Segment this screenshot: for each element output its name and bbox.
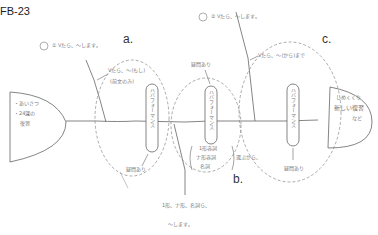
oval-b-text: ハバフォーマンス: [208, 90, 213, 142]
branch-c-question: 疑問あり: [284, 166, 304, 171]
branch-b-question: 疑問あり: [191, 62, 211, 67]
section-letter-c: c.: [322, 33, 331, 45]
label-text: ② Vたら、〜します。: [211, 13, 261, 19]
section-letter-a: a.: [123, 33, 133, 45]
spine-line: [66, 120, 318, 122]
section-letter-b: b.: [233, 173, 243, 185]
branch-a-line-1: Vたら、〜(もし): [108, 68, 145, 73]
branch-b-list-2: ナ形容詞: [196, 155, 216, 160]
rib-a: [86, 60, 106, 122]
branch-a-line-2: (前文のみ): [110, 79, 134, 84]
rib-b: [174, 124, 185, 195]
head-line-2: ・24課の: [14, 111, 35, 116]
branch-c-line-1: Vたら、〜(から)まで: [258, 53, 305, 58]
bracket-left: [190, 146, 192, 170]
branch-a-question: 疑問あり: [126, 167, 146, 172]
circle-two: [199, 13, 207, 21]
pointer-down: [120, 172, 128, 188]
branch-b-list-1: 1形容詞: [199, 146, 217, 151]
rib-a-tick: [97, 74, 108, 80]
bottom-line-2: 〜します。: [168, 222, 193, 227]
arrow-b: [205, 70, 210, 84]
bottom-line-1: 1形、ナ形、名詞ら、: [162, 203, 210, 208]
oval-a-text: ハバフォーマンス: [149, 88, 154, 150]
figure-id: FB-23: [0, 6, 30, 17]
head-line-3: 復習: [20, 121, 30, 126]
circle-one: [40, 42, 48, 50]
arrow-a: [142, 154, 148, 166]
branch-b-list-3: 名詞: [200, 164, 210, 169]
label-vtara-two: ② Vたら、〜します。: [211, 14, 261, 19]
rib-c: [236, 12, 255, 121]
label-text: ① Vたら、〜します。: [52, 42, 102, 48]
head-line-1: ・あいさつ: [14, 101, 39, 106]
tail-line-2: 新しい復習: [334, 105, 364, 111]
bracket-right: [232, 146, 234, 170]
tail-line-3: など: [352, 116, 362, 121]
oval-c-text: ハバフォーマンス: [290, 88, 295, 144]
label-vtara-one: ① Vたら、〜します。: [52, 43, 102, 48]
tail-line-1: しめくくり: [336, 95, 361, 100]
branch-b-choose: 選ぶから、: [236, 155, 261, 160]
